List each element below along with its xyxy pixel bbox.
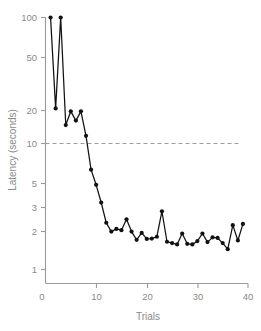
data-point [124, 217, 128, 221]
data-point [150, 236, 154, 240]
y-tick-label-100: 100 [21, 12, 37, 23]
latency-vs-trials-chart: 100 50 20 10 5 3 2 1 Latency (seconds) 0… [0, 0, 261, 331]
data-point [48, 15, 52, 19]
data-point [54, 106, 58, 110]
x-axis-title: Trials [136, 311, 160, 322]
y-tick-label-5: 5 [32, 178, 37, 189]
y-tick-label-20: 20 [26, 105, 37, 116]
x-axis-group: 0 10 20 30 40 Trials [39, 284, 253, 323]
data-point [236, 238, 240, 242]
data-point [200, 231, 204, 235]
data-point [180, 231, 184, 235]
data-point [74, 118, 78, 122]
y-axis-title: Latency (seconds) [7, 109, 18, 191]
data-point [155, 235, 159, 239]
data-point [129, 229, 133, 233]
data-point [69, 109, 73, 113]
data-point [195, 239, 199, 243]
data-point [59, 15, 63, 19]
data-point [89, 168, 93, 172]
data-point [205, 240, 209, 244]
data-point [145, 237, 149, 241]
data-point [114, 227, 118, 231]
y-tick-label-2: 2 [32, 226, 37, 237]
x-tick-label-20: 20 [142, 291, 153, 302]
data-point [160, 209, 164, 213]
y-tick-label-50: 50 [26, 52, 37, 63]
y-tick-label-1: 1 [32, 264, 37, 275]
y-tick-label-3: 3 [32, 202, 37, 213]
latency-series-markers [48, 15, 245, 251]
x-tick-label-10: 10 [91, 291, 102, 302]
y-tick-label-10: 10 [26, 138, 37, 149]
data-point [119, 228, 123, 232]
data-point [226, 247, 230, 251]
x-tick-label-30: 30 [193, 291, 204, 302]
data-point [140, 231, 144, 235]
y-axis-group: 100 50 20 10 5 3 2 1 Latency (seconds) [7, 12, 46, 283]
data-point [99, 200, 103, 204]
data-point [135, 238, 139, 242]
x-tick-label-40: 40 [243, 291, 254, 302]
data-point [79, 109, 83, 113]
data-point [165, 240, 169, 244]
chart-figure: 100 50 20 10 5 3 2 1 Latency (seconds) 0… [0, 0, 261, 331]
x-tick-label-0: 0 [39, 291, 44, 302]
data-point [241, 222, 245, 226]
data-point [190, 242, 194, 246]
data-point [84, 134, 88, 138]
data-point [221, 241, 225, 245]
data-point [94, 183, 98, 187]
data-point [185, 242, 189, 246]
data-point [231, 223, 235, 227]
data-point [175, 242, 179, 246]
data-point [216, 236, 220, 240]
data-point [109, 229, 113, 233]
data-point [210, 235, 214, 239]
data-point [64, 123, 68, 127]
latency-series-line [51, 18, 243, 250]
data-point [104, 221, 108, 225]
data-point [170, 241, 174, 245]
